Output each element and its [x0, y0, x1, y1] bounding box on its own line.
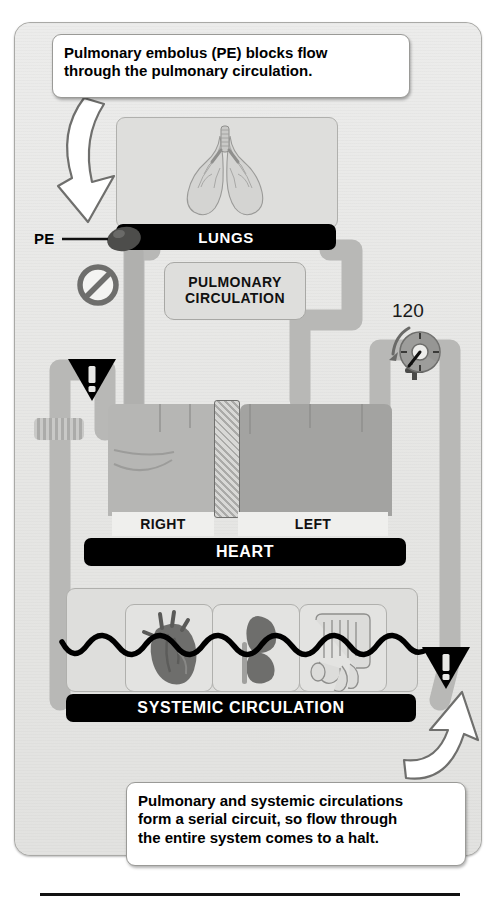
systemic-circulation-label: SYSTEMIC CIRCULATION: [137, 699, 344, 717]
pulmonary-circulation-box: PULMONARY CIRCULATION: [164, 262, 306, 320]
heart-right-label: RIGHT: [140, 516, 186, 532]
bottom-callout: Pulmonary and systemic circulations form…: [126, 782, 466, 866]
bottom-divider: [40, 893, 460, 896]
top-callout-line2: through the pulmonary circulation.: [64, 62, 398, 80]
pulmonary-circulation-line2: CIRCULATION: [185, 291, 285, 307]
bottom-callout-pointer-arrow: [400, 686, 486, 782]
top-callout-line1: Pulmonary embolus (PE) blocks flow: [64, 44, 398, 62]
pulmonary-circulation-line1: PULMONARY: [188, 275, 281, 291]
pressure-gauge-icon: [378, 322, 450, 384]
lungs-label: LUNGS: [198, 229, 254, 246]
heart-left-label: LEFT: [295, 516, 332, 532]
bottom-callout-line2: form a serial circuit, so flow through: [138, 810, 454, 828]
bottom-callout-line1: Pulmonary and systemic circulations: [138, 792, 454, 810]
flow-wave-line: [62, 630, 426, 672]
systemic-circulation-bar: SYSTEMIC CIRCULATION: [66, 694, 416, 722]
warning-triangle-icon-right: [420, 644, 472, 692]
top-callout-pointer-arrow: [48, 96, 158, 244]
heart-bar: HEART: [84, 538, 406, 566]
heart-right-label-box: RIGHT: [112, 512, 214, 536]
heart-chambers: [100, 398, 400, 518]
figure-root: LUNGS PULMONARY CIRCULATION PE 120: [0, 0, 497, 912]
heart-left-label-box: LEFT: [238, 512, 388, 536]
no-entry-icon: [76, 263, 120, 307]
warning-triangle-icon-left: [66, 356, 118, 404]
bottom-callout-line3: the entire system comes to a halt.: [138, 829, 454, 847]
venous-valve-texture: [34, 418, 84, 440]
lungs-illustration: [160, 124, 290, 222]
gauge-value: 120: [392, 300, 424, 322]
interventricular-septum: [214, 400, 240, 518]
heart-label: HEART: [216, 543, 274, 561]
top-callout: Pulmonary embolus (PE) blocks flow throu…: [52, 34, 410, 98]
